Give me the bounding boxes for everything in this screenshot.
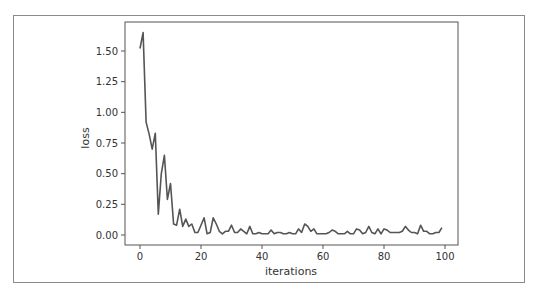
x-tick-label: 60: [317, 251, 330, 262]
y-tick-label: 1.25: [96, 76, 118, 87]
loss-line-chart: 0.000.250.500.751.001.251.50 02040608010…: [0, 0, 537, 295]
y-tick-label: 1.50: [96, 46, 118, 57]
y-tick-label: 0.25: [96, 199, 118, 210]
x-tick-label: 40: [256, 251, 269, 262]
x-tick-label: 100: [435, 251, 454, 262]
y-axis-ticks: 0.000.250.500.751.001.251.50: [96, 46, 125, 241]
plot-area: [125, 22, 458, 245]
x-tick-label: 20: [195, 251, 208, 262]
x-tick-label: 0: [137, 251, 143, 262]
y-tick-label: 1.00: [96, 107, 118, 118]
x-axis-ticks: 020406080100: [137, 245, 455, 262]
y-tick-label: 0.50: [96, 168, 118, 179]
loss-series-line: [140, 33, 442, 234]
y-tick-label: 0.75: [96, 138, 118, 149]
x-axis-label: iterations: [265, 265, 317, 278]
y-axis-label: loss: [79, 127, 92, 149]
x-tick-label: 80: [378, 251, 391, 262]
y-tick-label: 0.00: [96, 230, 118, 241]
